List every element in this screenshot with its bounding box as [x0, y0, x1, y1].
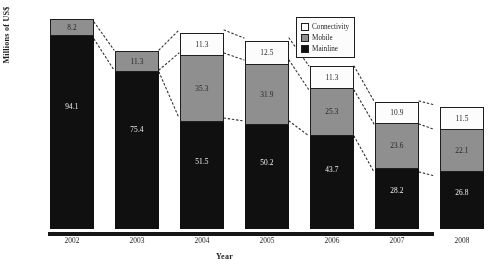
legend-label-connectivity: Connectivity — [312, 23, 349, 31]
value-mobile-2003: 11.3 — [130, 58, 143, 65]
bar-2007: 10.9 23.6 28.2 — [375, 102, 419, 229]
x-tick-2007: 2007 — [367, 236, 427, 245]
bar-2006: 11.3 25.3 43.7 — [310, 66, 354, 229]
segment-mobile-2003: 11.3 — [115, 51, 159, 72]
white-square-icon — [301, 23, 309, 31]
x-axis-title: Year — [0, 252, 449, 261]
segment-mainline-2003: 75.4 — [115, 72, 159, 229]
value-connectivity-2008: 11.5 — [455, 115, 468, 122]
y-axis-title: Millions of US$ — [2, 0, 11, 90]
segment-connectivity-2005: 12.5 — [245, 41, 289, 65]
value-mainline-2005: 50.2 — [260, 159, 273, 166]
segment-mobile-2005: 31.9 — [245, 65, 289, 125]
segment-mainline-2007: 28.2 — [375, 169, 419, 229]
x-tick-2002: 2002 — [42, 236, 102, 245]
value-mainline-2004: 51.5 — [195, 158, 208, 165]
bar-2004: 11.3 35.3 51.5 — [180, 33, 224, 229]
bar-2008: 11.5 22.1 26.8 — [440, 107, 484, 229]
legend-label-mobile: Mobile — [312, 34, 333, 42]
segment-mainline-2005: 50.2 — [245, 125, 289, 229]
plot-area: 8.2 94.1 11.3 75.4 11.3 35.3 51.5 — [28, 8, 434, 233]
value-connectivity-2006: 11.3 — [325, 74, 338, 81]
legend-item-mainline: Mainline — [301, 43, 349, 54]
value-connectivity-2004: 11.3 — [195, 41, 208, 48]
legend-item-mobile: Mobile — [301, 32, 349, 43]
segment-connectivity-2004: 11.3 — [180, 33, 224, 56]
value-mainline-2007: 28.2 — [390, 187, 403, 194]
segment-mobile-2008: 22.1 — [440, 130, 484, 172]
segment-mobile-2007: 23.6 — [375, 124, 419, 169]
value-mobile-2005: 31.9 — [260, 91, 273, 98]
segment-mainline-2002: 94.1 — [50, 36, 94, 229]
gray-square-icon — [301, 34, 309, 42]
value-connectivity-2005: 12.5 — [260, 49, 273, 56]
value-connectivity-2007: 10.9 — [390, 109, 403, 116]
x-tick-2008: 2008 — [432, 236, 488, 245]
legend-label-mainline: Mainline — [312, 45, 338, 53]
segment-mainline-2006: 43.7 — [310, 136, 354, 229]
value-mainline-2008: 26.8 — [455, 189, 468, 196]
segment-mainline-2008: 26.8 — [440, 172, 484, 229]
value-mobile-2007: 23.6 — [390, 142, 403, 149]
x-tick-2003: 2003 — [107, 236, 167, 245]
value-mobile-2002: 8.2 — [67, 24, 77, 31]
x-tick-2004: 2004 — [172, 236, 232, 245]
bar-2002: 8.2 94.1 — [50, 19, 94, 229]
legend-item-connectivity: Connectivity — [301, 21, 349, 32]
segment-connectivity-2007: 10.9 — [375, 102, 419, 124]
segment-mobile-2006: 25.3 — [310, 89, 354, 136]
value-mainline-2006: 43.7 — [325, 166, 338, 173]
bar-2003: 11.3 75.4 — [115, 51, 159, 229]
x-tick-2005: 2005 — [237, 236, 297, 245]
value-mainline-2003: 75.4 — [130, 126, 143, 133]
segment-mobile-2002: 8.2 — [50, 19, 94, 36]
bar-2005: 12.5 31.9 50.2 — [245, 41, 289, 229]
segment-connectivity-2008: 11.5 — [440, 107, 484, 130]
x-tick-2006: 2006 — [302, 236, 362, 245]
black-square-icon — [301, 45, 309, 53]
value-mainline-2002: 94.1 — [65, 103, 78, 110]
segment-connectivity-2006: 11.3 — [310, 66, 354, 89]
segment-mobile-2004: 35.3 — [180, 56, 224, 122]
x-axis-tick-labels: 2002 2003 2004 2005 2006 2007 2008 — [28, 236, 434, 248]
value-mobile-2004: 35.3 — [195, 85, 208, 92]
value-mobile-2006: 25.3 — [325, 108, 338, 115]
segment-mainline-2004: 51.5 — [180, 122, 224, 229]
chart-legend: Connectivity Mobile Mainline — [296, 17, 355, 58]
value-mobile-2008: 22.1 — [455, 147, 468, 154]
